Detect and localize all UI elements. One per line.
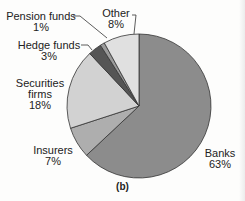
label-pct: 63% <box>200 159 240 170</box>
label-pct: 3% <box>14 51 84 62</box>
pie-slices <box>67 34 211 178</box>
figure-caption: (b) <box>0 181 245 192</box>
label-insurers: Insurers 7% <box>28 145 78 167</box>
label-securities-firms: Securities firms 18% <box>10 78 70 111</box>
label-banks: Banks 63% <box>200 148 240 170</box>
label-pct: 8% <box>96 19 136 30</box>
label-pct: 7% <box>28 156 78 167</box>
label-other: Other 8% <box>96 8 136 30</box>
label-pct: 1% <box>5 22 77 33</box>
label-pension-funds: Pension funds 1% <box>5 11 77 33</box>
label-hedge-funds: Hedge funds 3% <box>14 40 84 62</box>
label-pct: 18% <box>10 100 70 111</box>
